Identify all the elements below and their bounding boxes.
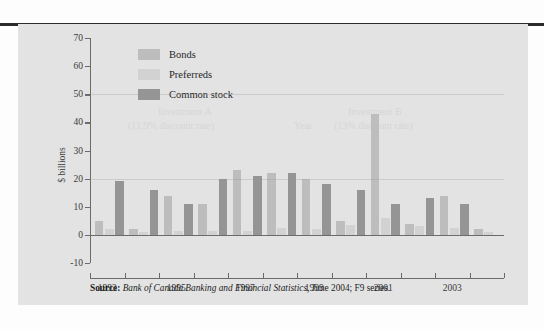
scanned-page: all the period. Further, anyone in Inves…: [0, 0, 544, 329]
bar-common-stock-1994: [150, 190, 159, 235]
bar-common-stock-1996: [219, 179, 228, 235]
figure-panel: Investment A (11.9% discount rate) Year …: [18, 24, 528, 305]
x-tick-label: 2003: [443, 283, 462, 293]
y-tick-label: 30: [55, 146, 83, 156]
y-tick-label: 40: [55, 117, 83, 127]
bar-preferreds-2000: [346, 225, 355, 235]
y-tick-label: -10: [55, 258, 83, 268]
bar-bonds-1999: [302, 179, 311, 235]
bar-preferreds-1995: [174, 231, 183, 235]
bar-bonds-1993: [95, 221, 104, 235]
bar-common-stock-1998: [288, 173, 297, 235]
legend-label-bonds: Bonds: [169, 49, 196, 60]
grouped-bar-chart: $ billions -10010203040506070 1993199519…: [18, 24, 528, 305]
legend-swatch-bonds: [138, 49, 160, 60]
y-tick-label: 20: [55, 174, 83, 184]
y-tick: -10: [85, 263, 90, 264]
bar-common-stock-1997: [253, 176, 262, 235]
bar-preferreds-1996: [208, 231, 217, 235]
bar-bonds-1995: [164, 196, 173, 235]
bar-common-stock-2001: [391, 204, 400, 235]
y-tick-label: 50: [55, 89, 83, 99]
bar-preferreds-1997: [243, 231, 252, 235]
legend-item-preferreds: Preferreds: [138, 66, 233, 82]
bar-preferreds-2004: [484, 232, 493, 235]
legend-swatch-preferreds: [138, 69, 160, 80]
grid-line: [90, 94, 504, 95]
bar-bonds-2003: [440, 196, 449, 235]
bar-preferreds-1994: [139, 232, 148, 235]
bar-common-stock-2003: [460, 204, 469, 235]
bar-common-stock-2000: [357, 190, 366, 235]
y-tick-label: 10: [55, 202, 83, 212]
x-axis-baseline: [90, 278, 504, 279]
source-publication: Bank of Canada Banking and Financial Sta…: [123, 283, 310, 293]
y-tick-label: 0: [55, 230, 83, 240]
bar-preferreds-1998: [277, 228, 286, 235]
bar-bonds-2004: [474, 229, 483, 235]
legend-label-preferreds: Preferreds: [169, 69, 212, 80]
bar-bonds-1996: [198, 204, 207, 235]
bar-bonds-2002: [405, 224, 414, 235]
bar-preferreds-2001: [381, 218, 390, 235]
x-tick: [504, 273, 505, 278]
bar-common-stock-1993: [115, 181, 124, 234]
bar-preferreds-1999: [312, 229, 321, 235]
bar-bonds-1994: [129, 229, 138, 235]
bar-preferreds-2003: [450, 228, 459, 235]
bar-common-stock-1995: [184, 204, 193, 235]
bar-preferreds-1993: [105, 229, 114, 235]
grid-line: [90, 179, 504, 180]
bar-bonds-2001: [371, 114, 380, 235]
bar-common-stock-2002: [426, 198, 435, 235]
bar-bonds-1998: [267, 173, 276, 235]
y-tick-label: 60: [55, 61, 83, 71]
bar-preferreds-2002: [415, 226, 424, 234]
bar-common-stock-1999: [322, 184, 331, 235]
source-prefix: Source:: [90, 283, 120, 293]
source-detail: June 2004; F9 series.: [309, 283, 390, 293]
y-tick-label: 70: [55, 33, 83, 43]
legend-item-bonds: Bonds: [138, 46, 233, 62]
bar-bonds-2000: [336, 221, 345, 235]
bar-bonds-1997: [233, 170, 242, 235]
source-note: Source: Bank of Canada Banking and Finan…: [90, 283, 390, 293]
chart-legend: Bonds Preferreds Common stock: [138, 46, 233, 106]
